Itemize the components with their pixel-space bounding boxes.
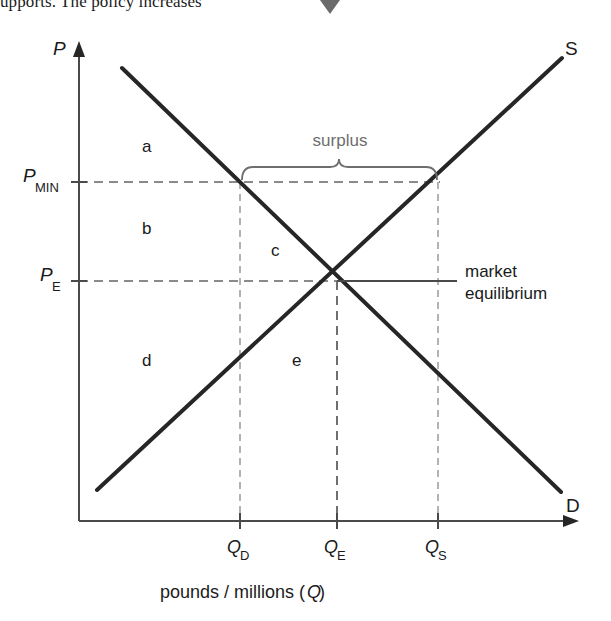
down-triangle-marker — [320, 0, 340, 14]
surplus-brace — [242, 159, 437, 180]
pmin-axis-label: P MIN — [23, 165, 59, 195]
x-axis-title-tail: ) — [319, 582, 325, 602]
region-label-a: a — [142, 137, 152, 156]
y-axis-title: P — [53, 38, 66, 59]
qd-base: Q — [227, 537, 241, 557]
qd-axis-label: Q D — [227, 537, 249, 563]
pmin-subscript: MIN — [35, 180, 59, 195]
market-equilibrium-label-line2: equilibrium — [465, 284, 547, 303]
pe-axis-label: P E — [40, 264, 61, 294]
demand-curve-label: D — [566, 495, 580, 516]
qe-base: Q — [324, 537, 338, 557]
qd-subscript: D — [240, 548, 249, 563]
supply-curve-label: S — [565, 38, 578, 59]
x-axis-title-main: pounds / millions ( — [160, 582, 305, 602]
qs-axis-label: Q S — [425, 537, 447, 563]
partial-body-text: upports. The policy increases — [0, 0, 300, 12]
region-label-e: e — [292, 351, 301, 370]
qs-base: Q — [425, 537, 439, 557]
market-equilibrium-label-line1: market — [465, 262, 517, 281]
region-label-b: b — [142, 219, 151, 238]
pe-subscript: E — [52, 279, 61, 294]
x-axis-arrowhead — [563, 515, 579, 527]
qs-subscript: S — [438, 548, 447, 563]
qe-axis-label: Q E — [324, 537, 346, 563]
qe-subscript: E — [337, 548, 346, 563]
y-axis-arrowhead — [73, 41, 85, 57]
price-floor-diagram-svg: S D P P MIN P E Q D Q E Q S — [0, 0, 611, 621]
region-label-d: d — [142, 351, 151, 370]
supply-demand-price-floor-figure: upports. The policy increases S D P — [0, 0, 611, 621]
region-label-c: c — [271, 241, 280, 260]
x-axis-title: pounds / millions ( Q ) — [160, 582, 325, 602]
surplus-label: surplus — [313, 131, 368, 150]
